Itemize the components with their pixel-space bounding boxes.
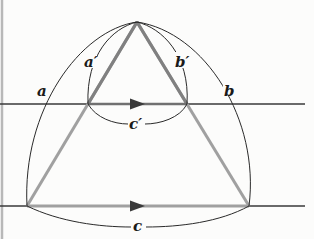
label-c-prime: c′	[129, 115, 142, 133]
label-c: c	[133, 217, 142, 235]
arc-c-prime-right	[145, 104, 187, 124]
diagram-svg: a′ b′ a b c′ c	[0, 0, 314, 239]
label-b-prime: b′	[175, 53, 189, 71]
diagram-figure: a′ b′ a b c′ c	[0, 0, 314, 239]
arc-c-left	[27, 206, 131, 227]
label-b: b	[224, 82, 235, 100]
label-a-prime: a′	[84, 53, 98, 71]
arrow-icon-lower	[130, 201, 145, 212]
label-a: a	[37, 82, 47, 100]
arc-c-right	[146, 206, 249, 227]
arrow-icon-upper	[130, 99, 145, 110]
arc-c-prime-left	[88, 104, 128, 124]
